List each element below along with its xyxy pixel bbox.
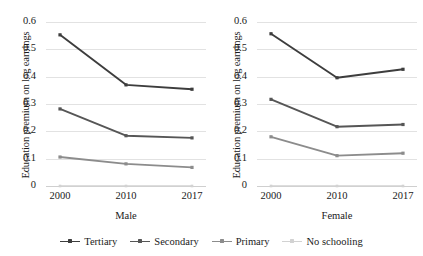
legend-item-tertiary[interactable]: Tertiary bbox=[60, 236, 117, 247]
chart-legend: TertiarySecondaryPrimaryNo schooling bbox=[0, 230, 423, 252]
legend-item-primary[interactable]: Primary bbox=[212, 236, 270, 247]
series-lines-male bbox=[46, 22, 206, 186]
x-tick-label: 2000 bbox=[248, 190, 294, 202]
y-tick-label: 0.1 bbox=[217, 153, 247, 163]
y-tick-label: 0.4 bbox=[217, 71, 247, 81]
data-point-marker bbox=[124, 162, 127, 165]
data-point-marker bbox=[191, 185, 194, 188]
y-tick-label: 0.2 bbox=[217, 125, 247, 135]
data-point-marker bbox=[190, 88, 193, 91]
chart-panel-female: Education premium on log earnings 0.60.5… bbox=[211, 0, 423, 228]
series-line-secondary bbox=[60, 109, 192, 138]
data-point-marker bbox=[58, 155, 61, 158]
data-point-marker bbox=[270, 185, 273, 188]
x-tick-label: 2010 bbox=[103, 190, 149, 202]
y-tick-label: 0.4 bbox=[6, 71, 36, 81]
data-point-marker bbox=[335, 76, 338, 79]
data-point-marker bbox=[58, 107, 61, 110]
legend-swatch-icon bbox=[130, 238, 150, 245]
legend-swatch-icon bbox=[60, 238, 80, 245]
series-line-tertiary bbox=[271, 34, 403, 78]
legend-label: Tertiary bbox=[84, 236, 117, 247]
data-point-marker bbox=[190, 136, 193, 139]
x-tick-label: 2017 bbox=[169, 190, 215, 202]
y-tick-label: 0.6 bbox=[217, 16, 247, 26]
legend-item-no-schooling[interactable]: No schooling bbox=[282, 236, 362, 247]
data-point-marker bbox=[335, 154, 338, 157]
legend-swatch-icon bbox=[212, 238, 232, 245]
legend-swatch-icon bbox=[282, 238, 302, 245]
series-lines-female bbox=[257, 22, 417, 186]
y-axis-ticks-female: 0.60.50.40.30.20.10 bbox=[215, 0, 247, 190]
plot-area-male: Male 200020102017 bbox=[46, 22, 206, 186]
x-tick-label: 2000 bbox=[37, 190, 83, 202]
legend-label: No schooling bbox=[306, 236, 362, 247]
data-point-marker bbox=[59, 185, 62, 188]
data-point-marker bbox=[124, 134, 127, 137]
plot-area-female: Female 200020102017 bbox=[257, 22, 417, 186]
data-point-marker bbox=[401, 123, 404, 126]
series-line-primary bbox=[60, 157, 192, 167]
data-point-marker bbox=[269, 32, 272, 35]
y-tick-label: 0.3 bbox=[6, 98, 36, 108]
legend-item-secondary[interactable]: Secondary bbox=[130, 236, 198, 247]
series-line-primary bbox=[271, 137, 403, 156]
data-point-marker bbox=[402, 185, 405, 188]
y-tick-label: 0.5 bbox=[217, 43, 247, 53]
data-point-marker bbox=[58, 33, 61, 36]
data-point-marker bbox=[269, 135, 272, 138]
data-point-marker bbox=[269, 98, 272, 101]
y-tick-label: 0.3 bbox=[217, 98, 247, 108]
y-tick-label: 0.6 bbox=[6, 16, 36, 26]
panel-title-female: Female bbox=[257, 210, 417, 221]
data-point-marker bbox=[125, 185, 128, 188]
y-tick-label: 0 bbox=[6, 180, 36, 190]
legend-label: Secondary bbox=[154, 236, 198, 247]
data-point-marker bbox=[401, 152, 404, 155]
chart-panel-male: Education premium on log earnings 0.60.5… bbox=[0, 0, 212, 228]
data-point-marker bbox=[124, 83, 127, 86]
data-point-marker bbox=[190, 166, 193, 169]
education-premium-chart: Education premium on log earnings 0.60.5… bbox=[0, 0, 423, 256]
data-point-marker bbox=[401, 68, 404, 71]
y-tick-label: 0.1 bbox=[6, 153, 36, 163]
y-axis-ticks-male: 0.60.50.40.30.20.10 bbox=[4, 0, 36, 190]
x-tick-label: 2017 bbox=[380, 190, 423, 202]
y-tick-label: 0.5 bbox=[6, 43, 36, 53]
data-point-marker bbox=[336, 185, 339, 188]
y-tick-label: 0 bbox=[217, 180, 247, 190]
x-tick-label: 2010 bbox=[314, 190, 360, 202]
panel-title-male: Male bbox=[46, 210, 206, 221]
legend-label: Primary bbox=[236, 236, 270, 247]
series-line-tertiary bbox=[60, 35, 192, 89]
series-line-secondary bbox=[271, 99, 403, 126]
data-point-marker bbox=[335, 125, 338, 128]
y-tick-label: 0.2 bbox=[6, 125, 36, 135]
